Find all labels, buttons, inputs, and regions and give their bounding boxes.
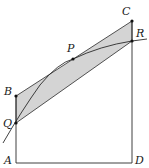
label-R: R [135, 27, 144, 40]
point-C [130, 19, 133, 22]
label-A: A [3, 154, 12, 167]
label-D: D [134, 154, 144, 167]
point-Q [14, 121, 17, 124]
label-B: B [3, 85, 12, 98]
point-B [14, 94, 17, 97]
point-R [130, 39, 133, 42]
label-Q: Q [3, 117, 12, 130]
point-P [71, 57, 74, 60]
geometry-diagram: C R P B Q A D [0, 0, 149, 168]
shaded-parallelogram [16, 21, 132, 123]
label-P: P [66, 42, 75, 55]
label-C: C [122, 5, 131, 18]
